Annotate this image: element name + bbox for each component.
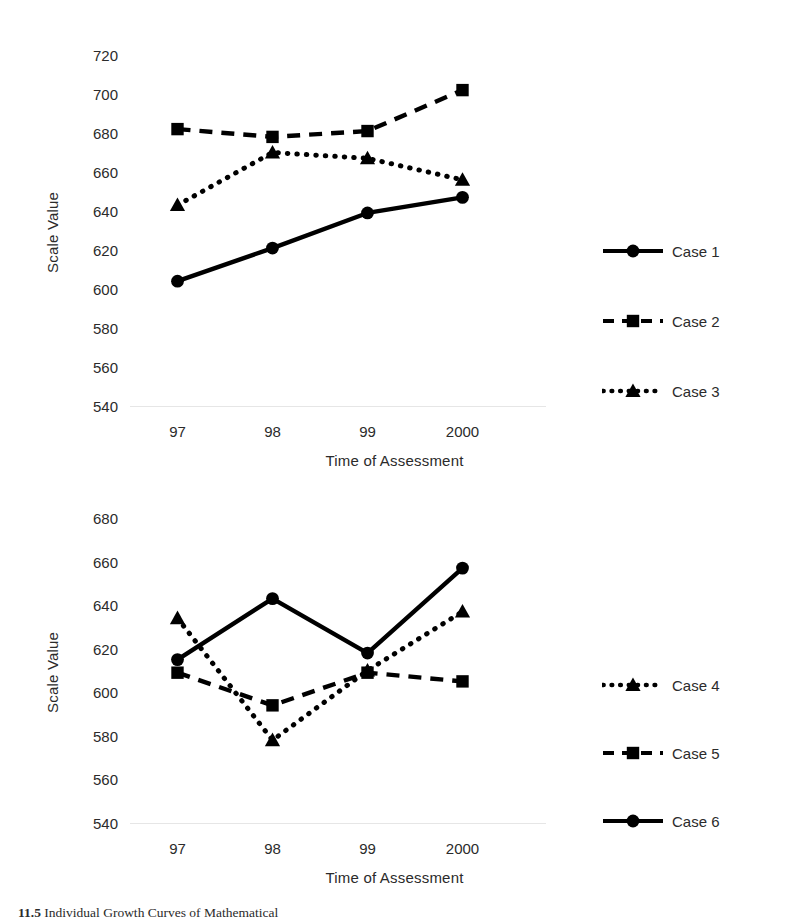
- square-marker: [266, 699, 278, 711]
- legend-bottom: Case 4Case 5Case 6: [602, 672, 720, 876]
- series-line: [178, 90, 463, 137]
- legend-key-triangle-dotted-icon: [602, 675, 664, 695]
- circle-marker: [361, 647, 374, 660]
- legend-key: [602, 241, 664, 261]
- circle-marker: [627, 245, 640, 258]
- legend-label: Case 5: [672, 745, 720, 762]
- triangle-marker: [170, 611, 185, 625]
- legend-item-case-2[interactable]: Case 2: [602, 308, 720, 334]
- legend-label: Case 1: [672, 243, 720, 260]
- legend-item-case-1[interactable]: Case 1: [602, 238, 720, 264]
- series-line: [178, 568, 463, 660]
- circle-marker: [456, 562, 469, 575]
- square-marker: [361, 666, 373, 678]
- circle-marker: [361, 207, 374, 220]
- triangle-marker: [455, 604, 470, 618]
- circle-marker: [171, 653, 184, 666]
- chart-panel-top: Scale Value 7207006806606406206005805605…: [0, 0, 789, 478]
- square-marker: [456, 84, 468, 96]
- legend-label: Case 4: [672, 677, 720, 694]
- legend-key: [602, 675, 664, 695]
- circle-marker: [266, 592, 279, 605]
- chart-panel-bottom: Scale Value 680660640620600580560540 979…: [0, 478, 789, 896]
- legend-item-case-6[interactable]: Case 6: [602, 808, 720, 834]
- legend-item-case-3[interactable]: Case 3: [602, 378, 720, 404]
- figure-caption: 11.5 Individual Growth Curves of Mathema…: [18, 905, 278, 918]
- series-line: [178, 153, 463, 206]
- legend-label: Case 3: [672, 383, 720, 400]
- figure-caption-number: 11.5: [18, 905, 41, 918]
- series-line: [178, 673, 463, 706]
- triangle-marker: [170, 198, 185, 212]
- legend-key: [602, 311, 664, 331]
- circle-marker: [456, 191, 469, 204]
- figure-individual-growth-curves: Scale Value 7207006806606406206005805605…: [0, 0, 789, 918]
- square-marker: [171, 666, 183, 678]
- circle-marker: [171, 275, 184, 288]
- legend-key-square-dashed-icon: [602, 743, 664, 763]
- square-marker: [627, 747, 639, 759]
- square-marker: [171, 123, 183, 135]
- square-marker: [361, 125, 373, 137]
- x-axis-title-top: Time of Assessment: [0, 452, 789, 469]
- square-marker: [627, 315, 639, 327]
- square-marker: [266, 131, 278, 143]
- circle-marker: [266, 242, 279, 255]
- square-marker: [456, 675, 468, 687]
- legend-label: Case 6: [672, 813, 720, 830]
- figure-caption-text: Individual Growth Curves of Mathematical: [44, 905, 278, 918]
- legend-key-circle-solid-icon: [602, 811, 664, 831]
- legend-item-case-4[interactable]: Case 4: [602, 672, 720, 698]
- legend-key: [602, 743, 664, 763]
- legend-key: [602, 811, 664, 831]
- legend-top: Case 1Case 2Case 3: [602, 238, 720, 448]
- circle-marker: [627, 815, 640, 828]
- legend-label: Case 2: [672, 313, 720, 330]
- legend-key-circle-solid-icon: [602, 241, 664, 261]
- legend-item-case-5[interactable]: Case 5: [602, 740, 720, 766]
- legend-key: [602, 381, 664, 401]
- legend-key-triangle-dotted-icon: [602, 381, 664, 401]
- series-line: [178, 197, 463, 281]
- legend-key-square-dashed-icon: [602, 311, 664, 331]
